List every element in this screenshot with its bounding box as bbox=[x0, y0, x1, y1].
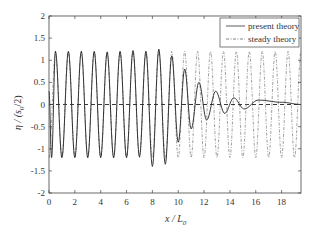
y-tick-label: -2 bbox=[38, 188, 46, 198]
y-tick-label: 0.5 bbox=[34, 77, 46, 87]
y-tick-label: 2 bbox=[41, 11, 46, 21]
y-tick-label: -1 bbox=[38, 144, 46, 154]
x-tick-label: 12 bbox=[200, 197, 209, 207]
legend-steady: steady theory bbox=[248, 34, 297, 44]
y-tick-label: 0 bbox=[41, 100, 46, 110]
y-tick-label: -1.5 bbox=[31, 166, 46, 176]
x-tick-label: 6 bbox=[124, 197, 129, 207]
present-theory-line bbox=[49, 49, 301, 166]
x-tick-label: 4 bbox=[98, 197, 103, 207]
x-axis-label: x / L0 bbox=[164, 213, 187, 227]
x-tick-label: 14 bbox=[225, 197, 235, 207]
legend-present: present theory bbox=[248, 21, 300, 31]
x-tick-label: 2 bbox=[73, 197, 78, 207]
y-tick-label: -0.5 bbox=[31, 122, 46, 132]
x-tick-label: 18 bbox=[277, 197, 287, 207]
y-tick-label: 1 bbox=[41, 55, 46, 65]
y-axis-label: η / (s0/2) bbox=[12, 95, 26, 130]
plot-area bbox=[49, 49, 301, 166]
x-tick-label: 16 bbox=[251, 197, 261, 207]
x-tick-label: 10 bbox=[174, 197, 184, 207]
chart: 024681012141618-2-1.5-1-0.500.511.52 pre… bbox=[0, 0, 316, 235]
x-tick-label: 8 bbox=[150, 197, 155, 207]
y-tick-label: 1.5 bbox=[34, 33, 46, 43]
legend: present theory steady theory bbox=[220, 18, 300, 47]
x-tick-label: 0 bbox=[47, 197, 52, 207]
